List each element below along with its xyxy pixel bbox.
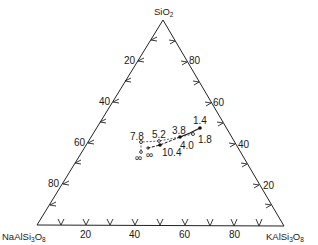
left-axis-label-80: 80 (48, 178, 60, 189)
point-label-4-0: 4.0 (180, 140, 194, 151)
left-axis-label-20: 20 (124, 55, 136, 66)
triangle-frame (37, 20, 284, 226)
point-label-1-4: 1.4 (193, 115, 207, 126)
right-edge-ticks (169, 40, 271, 208)
point-label-1-8: 1.8 (198, 134, 212, 145)
left-edge-ticks (50, 37, 157, 206)
vertex-label-kalsi3o8: KAlSi3O8 (266, 231, 304, 243)
point-label-7-8: 7.8 (130, 131, 144, 142)
bottom-axis-label-60: 60 (179, 229, 191, 240)
point-1-8 (192, 133, 195, 136)
point-5-2 (158, 140, 161, 143)
left-axis-label-60: 60 (74, 137, 86, 148)
point-label-inf-1: ∞ (135, 152, 142, 163)
left-axis-label-40: 40 (99, 96, 111, 107)
bottom-axis-label-80: 80 (229, 229, 241, 240)
right-axis-label-60: 60 (213, 97, 225, 108)
point-1-4 (198, 126, 202, 130)
right-axis-label-80: 80 (189, 55, 201, 66)
bottom-axis-label-40: 40 (129, 229, 141, 240)
point-label-inf-2: ∞ (146, 149, 153, 160)
ternary-diagram: SiO2 NaAlSi3O8 KAlSi3O8 20 40 60 80 80 6… (0, 0, 318, 245)
right-axis-label-20: 20 (263, 180, 275, 191)
point-label-3-8: 3.8 (172, 125, 186, 136)
vertex-label-sio2: SiO2 (154, 6, 174, 18)
right-axis-label-40: 40 (238, 139, 250, 150)
vertex-label-naalsi3o8: NaAlSi3O8 (2, 231, 46, 243)
bottom-axis-label-20: 20 (80, 229, 92, 240)
point-label-5-2: 5.2 (152, 129, 166, 140)
point-label-10-4: 10.4 (162, 147, 182, 158)
